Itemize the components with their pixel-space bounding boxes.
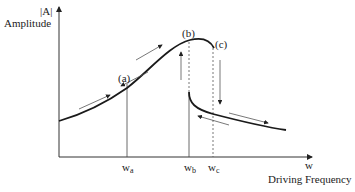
x-axis-label: Driving Frequency: [268, 174, 351, 185]
lower-branch-curve: [189, 92, 286, 130]
tick-wb: wb: [184, 162, 196, 175]
arrow-up-upper-left: [136, 45, 162, 60]
arrow-right-lower: [229, 113, 268, 123]
tick-wc-base: w: [208, 161, 216, 173]
y-axis-symbol: |A|: [40, 6, 52, 17]
point-label-a: (a): [118, 73, 130, 84]
y-axis-label: Amplitude: [4, 18, 51, 29]
tick-wa-base: w: [122, 161, 130, 173]
upper-branch-curve: [59, 39, 214, 121]
x-axis-symbol: w: [305, 160, 313, 171]
tick-wc-sub: c: [216, 166, 220, 175]
point-label-b: (b): [182, 28, 195, 39]
tick-wa-sub: a: [130, 166, 134, 175]
tick-wc: wc: [208, 162, 220, 175]
tick-wb-sub: b: [192, 166, 196, 175]
tick-wb-base: w: [184, 161, 192, 173]
resonance-diagram: [0, 0, 355, 192]
tick-wa: wa: [122, 162, 134, 175]
point-label-c: (c): [215, 39, 227, 50]
